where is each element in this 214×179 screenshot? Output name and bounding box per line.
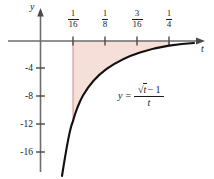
fraction-1-16: 1 16 xyxy=(68,9,79,30)
x-tick-label-3-16: 3 16 xyxy=(127,9,147,30)
fraction-3-16: 3 16 xyxy=(132,9,143,30)
equation-annotation: y = √t− 1 t xyxy=(118,83,164,108)
fraction-denominator: 16 xyxy=(68,20,79,29)
shaded-area-region xyxy=(73,41,169,121)
fraction-denominator: 16 xyxy=(132,20,143,29)
x-axis-label: t xyxy=(201,44,204,54)
fraction-denominator: 8 xyxy=(102,20,109,29)
equation-fraction: √t− 1 t xyxy=(134,83,163,108)
fraction-1-8: 1 8 xyxy=(102,9,109,30)
fraction-1-4: 1 4 xyxy=(166,9,173,30)
graph-figure: y t 1 16 1 8 3 16 1 4 -4 -8 -12 -16 xyxy=(0,0,214,179)
numerator-remainder: − 1 xyxy=(147,84,160,95)
y-tick-label-minus4: -4 xyxy=(8,64,33,74)
radicand: t xyxy=(143,83,148,95)
y-tick-label-minus12: -12 xyxy=(4,120,33,130)
fraction-numerator: 1 xyxy=(68,9,79,18)
radical-group: √t xyxy=(137,83,147,95)
x-tick-label-1-8: 1 8 xyxy=(95,9,115,30)
y-tick-label-minus8: -8 xyxy=(8,92,33,102)
fraction-numerator: 1 xyxy=(166,9,173,18)
y-axis-label: y xyxy=(30,2,34,12)
equation-numerator: √t− 1 xyxy=(134,83,163,96)
equation-lhs: y xyxy=(118,90,122,101)
x-tick-label-1-16: 1 16 xyxy=(63,9,83,30)
equation-denominator: t xyxy=(134,97,163,109)
y-tick-label-minus16: -16 xyxy=(4,148,33,158)
x-tick-label-1-4: 1 4 xyxy=(159,9,179,30)
y-axis-arrowhead xyxy=(37,8,44,17)
fraction-numerator: 3 xyxy=(132,9,143,18)
equation-equals-sign: = xyxy=(125,90,131,101)
fraction-numerator: 1 xyxy=(102,9,109,18)
fraction-denominator: 4 xyxy=(166,20,173,29)
